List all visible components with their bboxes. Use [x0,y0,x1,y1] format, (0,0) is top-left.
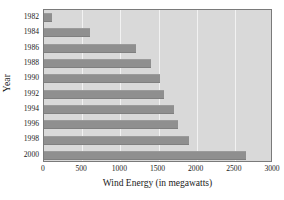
plot-area [43,9,272,162]
x-tick-label: 3000 [264,164,279,173]
x-axis-tick-labels: 050010001500200025003000 [43,164,272,176]
bar-row [44,148,246,162]
bar [44,74,160,83]
bar [44,105,174,114]
x-tick-label: 500 [75,164,86,173]
y-tick-label: 1994 [24,101,39,116]
y-tick-label: 1992 [24,86,39,101]
x-tick-label: 1500 [150,164,165,173]
gridline [197,10,198,161]
bar-row [44,132,189,147]
x-tick-label: 1000 [112,164,127,173]
bar [44,28,90,37]
y-axis-title-text: Year [2,73,12,91]
y-tick-label: 1982 [24,9,39,24]
bar [44,90,164,99]
gridline [235,10,236,161]
bar [44,13,52,22]
y-axis-tick-labels: 1982198419861988199019921994199619982000 [12,9,41,162]
bar [44,136,189,145]
x-tick-label: 0 [41,164,45,173]
bar [44,59,151,68]
y-tick-label: 2000 [24,147,39,162]
y-tick-label: 1998 [24,131,39,146]
bar-row [44,25,90,40]
bar [44,151,246,160]
bar [44,120,178,129]
y-tick-label: 1986 [24,40,39,55]
x-tick-label: 2000 [188,164,203,173]
y-tick-label: 1990 [24,70,39,85]
bar-row [44,102,174,117]
bar-row [44,41,136,56]
bar-row [44,117,178,132]
y-tick-label: 1984 [24,24,39,39]
bar-row [44,87,164,102]
bar-row [44,71,160,86]
bar [44,44,136,53]
x-axis-title: Wind Energy (in megawatts) [43,178,272,188]
y-tick-label: 1988 [24,55,39,70]
bar-row [44,10,52,25]
bar-row [44,56,151,71]
x-tick-label: 2500 [226,164,241,173]
y-tick-label: 1996 [24,116,39,131]
wind-energy-bar-chart: Year 19821984198619881990199219941996199… [0,0,284,200]
